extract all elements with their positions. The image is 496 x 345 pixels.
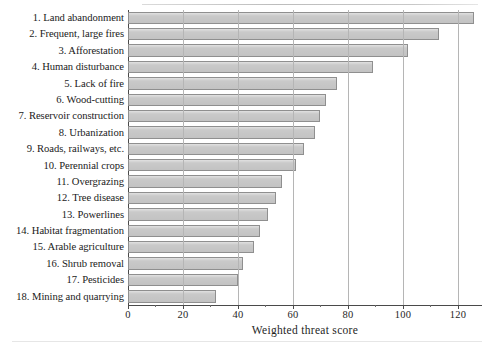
bar-row — [128, 174, 478, 190]
x-axis-title: Weighted threat score — [128, 324, 482, 336]
bar — [128, 28, 439, 40]
category-label: 10. Perennial crops — [0, 158, 124, 174]
bar-row — [128, 92, 478, 108]
bar-row — [128, 26, 478, 42]
bar-row — [128, 108, 478, 124]
category-label: 3. Afforestation — [0, 43, 124, 59]
x-tick-label-0: 0 — [125, 309, 130, 320]
x-minor-tick-70 — [320, 305, 321, 307]
x-minor-tick-90 — [375, 305, 376, 307]
category-label: 11. Overgrazing — [0, 174, 124, 190]
category-label: 13. Powerlines — [0, 207, 124, 223]
bar — [128, 241, 254, 253]
category-label: 4. Human disturbance — [0, 59, 124, 75]
category-label: 9. Roads, railways, etc. — [0, 141, 124, 157]
x-tick-label-120: 120 — [450, 309, 466, 320]
category-label: 1. Land abandonment — [0, 10, 124, 26]
gridline-80 — [348, 10, 349, 305]
plot-area — [128, 10, 478, 305]
gridline-100 — [403, 10, 404, 305]
x-minor-tick-110 — [430, 305, 431, 307]
bar — [128, 225, 260, 237]
category-label: 18. Mining and quarrying — [0, 289, 124, 305]
category-label: 2. Frequent, large fires — [0, 26, 124, 42]
bar-row — [128, 239, 478, 255]
bar-row — [128, 125, 478, 141]
category-label: 6. Wood-cutting — [0, 92, 124, 108]
category-label: 14. Habitat fragmentation — [0, 223, 124, 239]
bar-row — [128, 256, 478, 272]
bar-row — [128, 59, 478, 75]
bar-row — [128, 190, 478, 206]
bar-row — [128, 207, 478, 223]
page-rule-bottom — [12, 341, 482, 342]
bar — [128, 61, 373, 73]
bar — [128, 257, 243, 269]
category-label: 5. Lack of fire — [0, 76, 124, 92]
bar — [128, 208, 268, 220]
category-label: 12. Tree disease — [0, 190, 124, 206]
x-axis-line — [128, 305, 482, 306]
bar-row — [128, 272, 478, 288]
bar — [128, 192, 276, 204]
bar — [128, 159, 296, 171]
bar — [128, 175, 282, 187]
bar-row — [128, 223, 478, 239]
bar-row — [128, 141, 478, 157]
gridline-120 — [458, 10, 459, 305]
bar — [128, 77, 337, 89]
bar — [128, 12, 474, 24]
bar-chart-figure: 020406080100120 1. Land abandonment2. Fr… — [0, 0, 496, 345]
category-label: 15. Arable agriculture — [0, 239, 124, 255]
bar-row — [128, 289, 478, 305]
x-minor-tick-10 — [155, 305, 156, 307]
bar-row — [128, 76, 478, 92]
bar-row — [128, 158, 478, 174]
x-tick-label-80: 80 — [342, 309, 353, 320]
bar-row — [128, 43, 478, 59]
x-tick-label-20: 20 — [178, 309, 189, 320]
category-label: 7. Reservoir construction — [0, 108, 124, 124]
x-minor-tick-30 — [210, 305, 211, 307]
bar — [128, 126, 315, 138]
page-rule-top — [142, 4, 478, 5]
bar-row — [128, 10, 478, 26]
category-label: 8. Urbanization — [0, 125, 124, 141]
bar — [128, 143, 304, 155]
x-minor-tick-50 — [265, 305, 266, 307]
x-tick-label-40: 40 — [233, 309, 244, 320]
gridline-40 — [238, 10, 239, 305]
gridline-20 — [183, 10, 184, 305]
category-label: 17. Pesticides — [0, 272, 124, 288]
gridline-60 — [293, 10, 294, 305]
bar — [128, 44, 408, 56]
bar — [128, 94, 326, 106]
category-labels: 1. Land abandonment2. Frequent, large fi… — [0, 10, 124, 305]
x-tick-label-100: 100 — [395, 309, 411, 320]
category-label: 16. Shrub removal — [0, 256, 124, 272]
bar — [128, 290, 216, 302]
bar — [128, 110, 320, 122]
x-tick-label-60: 60 — [288, 309, 299, 320]
